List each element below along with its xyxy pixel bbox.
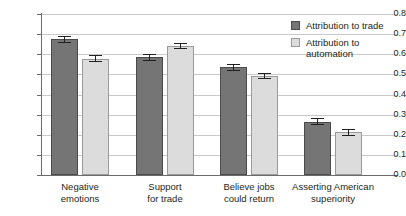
bar-trade[interactable] [220,67,247,175]
legend: Attribution to trade Attribution to auto… [291,20,402,65]
error-bar-cap-top [342,129,355,130]
legend-swatch-trade-icon [291,21,300,30]
y-tick-mark [37,54,41,55]
category-label: Asserting Americansuperiority [278,181,388,204]
error-bar-cap-top [58,36,71,37]
error-bar-cap-top [174,43,187,44]
bar-automation[interactable] [167,46,194,175]
y-tick-mark [37,14,41,15]
y-tick-mark [37,95,41,96]
y-tick-label: 0.2 [372,130,406,139]
bar-trade[interactable] [51,39,78,175]
error-bar-cap-top [227,64,240,65]
legend-item-automation[interactable]: Attribution to automation [291,37,402,60]
bar-trade[interactable] [136,57,163,175]
y-tick-label: 0.4 [372,90,406,99]
category-label-line: superiority [278,193,388,205]
y-tick-mark [37,115,41,116]
x-axis-line [41,175,398,176]
y-tick-mark [37,175,41,176]
error-bar-cap-top [258,73,271,74]
y-tick-label: 0.3 [372,110,406,119]
error-bar-cap-top [143,54,156,55]
legend-label-automation: Attribution to automation [306,37,402,60]
error-bar-cap-top [311,118,324,119]
y-tick-mark [37,155,41,156]
y-tick-label: 0.0 [372,170,406,179]
legend-label-trade: Attribution to trade [306,20,384,32]
y-axis-line [41,13,42,176]
legend-item-trade[interactable]: Attribution to trade [291,20,402,32]
bar-group [220,14,278,175]
y-tick-mark [37,34,41,35]
bar-trade[interactable] [304,122,331,175]
y-tick-mark [37,135,41,136]
bar-automation[interactable] [82,59,109,175]
bar-group [51,14,109,175]
bar-automation[interactable] [251,76,278,175]
error-bar-cap-top [89,55,102,56]
bar-automation[interactable] [335,132,362,175]
y-tick-mark [37,74,41,75]
bar-group [136,14,194,175]
bar-chart: 0.80.70.60.50.40.30.20.10.0 Negativeemot… [0,0,406,216]
y-tick-label: 0.1 [372,150,406,159]
y-tick-label: 0.8 [372,9,406,18]
category-label-line: Asserting American [278,181,388,193]
legend-swatch-automation-icon [291,38,300,47]
y-tick-label: 0.5 [372,69,406,78]
